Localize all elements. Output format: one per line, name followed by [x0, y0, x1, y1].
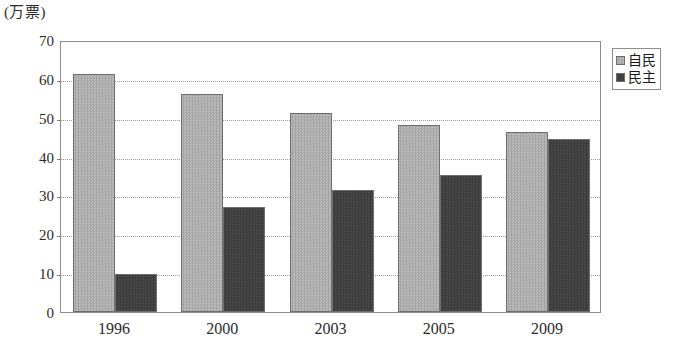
y-axis-tick-label-0: 0	[0, 306, 54, 321]
x-axis-tick-label-2009: 2009	[531, 318, 563, 340]
bar-民主-2000	[223, 207, 265, 312]
bar-自民-1996	[73, 74, 115, 312]
bar-民主-2009	[548, 139, 590, 312]
legend-item-ldp: 自民	[616, 52, 656, 69]
bar-group-2003	[290, 42, 374, 312]
x-axis-tick-label-2005: 2005	[423, 318, 455, 340]
plot-area	[60, 41, 601, 313]
y-axis-tick-label-70: 70	[0, 34, 54, 49]
bar-group-1996	[73, 42, 157, 312]
bar-group-2000	[181, 42, 265, 312]
legend-swatch-icon-dpj	[616, 73, 625, 82]
legend-swatch-icon-ldp	[616, 56, 625, 65]
bar-民主-1996	[115, 274, 157, 312]
x-axis-tick-label-2003: 2003	[315, 318, 347, 340]
y-axis-tick-label-10: 10	[0, 267, 54, 282]
legend-label-ldp: 自民	[628, 53, 656, 68]
legend-label-dpj: 民主	[628, 70, 656, 85]
chart-legend: 自民 民主	[612, 48, 661, 90]
bar-自民-2003	[290, 113, 332, 312]
bar-group-2009	[506, 42, 590, 312]
legend-item-dpj: 民主	[616, 69, 656, 86]
x-axis-labels: 19962000200320052009	[60, 318, 601, 346]
bars-layer	[61, 42, 600, 312]
bar-民主-2005	[440, 175, 482, 312]
y-axis-tick-label-50: 50	[0, 111, 54, 126]
x-axis-tick-label-1996: 1996	[98, 318, 130, 340]
bar-自民-2009	[506, 132, 548, 312]
y-axis-tick-label-30: 30	[0, 189, 54, 204]
x-axis-tick-label-2000: 2000	[206, 318, 238, 340]
bar-民主-2003	[332, 190, 374, 312]
bar-group-2005	[398, 42, 482, 312]
bar-自民-2005	[398, 125, 440, 312]
y-axis-tick-label-60: 60	[0, 72, 54, 87]
y-axis-tick-label-40: 40	[0, 150, 54, 165]
y-axis-tick-label-20: 20	[0, 228, 54, 243]
y-axis-labels: 010203040506070	[0, 41, 54, 313]
bar-自民-2000	[181, 94, 223, 312]
y-axis-unit-label: (万票)	[4, 2, 46, 22]
